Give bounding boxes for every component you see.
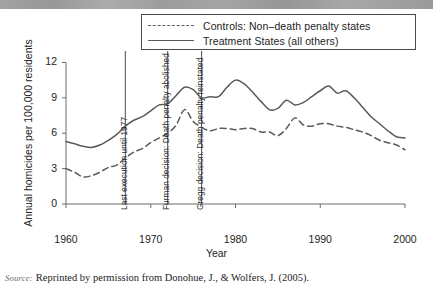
annotation-label-1: Last execution until 1977: [120, 117, 129, 210]
x-axis-label: Year: [0, 247, 433, 259]
x-tick-2000: 2000: [385, 233, 425, 245]
legend-swatch-solid-icon: [148, 36, 194, 45]
y-tick-0: 0: [35, 197, 57, 209]
x-tick-1970: 1970: [131, 233, 171, 245]
x-tick-1960: 1960: [46, 233, 86, 245]
chart-axes: [62, 62, 405, 208]
source-caption: Source:Reprinted by permission from Dono…: [5, 272, 430, 283]
source-kicker: Source:: [5, 273, 33, 283]
legend-label-controls: Controls: Non–death penalty states: [203, 20, 370, 32]
legend-item-treatment: Treatment States (all others): [148, 33, 409, 48]
legend-swatch-dashed-icon: [148, 21, 194, 30]
y-tick-6: 6: [35, 126, 57, 138]
y-axis-label: Annual homicides per 100,000 residents: [22, 33, 34, 233]
chart-legend: Controls: Non–death penalty states Treat…: [141, 14, 416, 50]
series-line-treatment: [66, 80, 405, 147]
chart-figure: Controls: Non–death penalty states Treat…: [0, 9, 433, 264]
y-tick-9: 9: [35, 91, 57, 103]
y-tick-12: 12: [35, 55, 57, 67]
legend-label-treatment: Treatment States (all others): [203, 35, 339, 47]
annotation-label-2: Furman decision: Death penalty abolished: [162, 53, 171, 210]
x-tick-1980: 1980: [216, 233, 256, 245]
chart-series: [66, 80, 405, 177]
scanned-page-band: [0, 0, 433, 9]
legend-item-controls: Controls: Non–death penalty states: [148, 18, 409, 33]
series-line-controls: [66, 110, 405, 177]
source-text: Reprinted by permission from Donohue, J.…: [36, 272, 309, 283]
x-tick-1990: 1990: [300, 233, 340, 245]
y-tick-3: 3: [35, 162, 57, 174]
annotation-label-3: Gregg decision: Death penalty reinstated: [196, 58, 205, 210]
